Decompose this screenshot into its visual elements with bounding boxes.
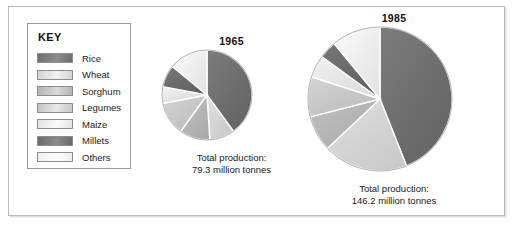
legend-label-millets: Millets xyxy=(82,136,109,146)
legend-item-legumes: Legumes xyxy=(28,100,130,117)
pie-caption-line2-1985: 146.2 million tonnes xyxy=(305,195,483,207)
legend-item-millets: Millets xyxy=(28,133,130,150)
pie-svg-1985 xyxy=(305,24,483,178)
legend-key-box: KEY RiceWheatSorghumLegumesMaizeMilletsO… xyxy=(27,23,131,169)
pie-caption-line2-1965: 79.3 million tonnes xyxy=(159,164,304,176)
pie-caption-line1-1965: Total production: xyxy=(159,152,304,164)
pie-chart-1985: 1985 Total production: 146.2 million ton… xyxy=(305,12,483,207)
legend-item-list: RiceWheatSorghumLegumesMaizeMilletsOther… xyxy=(28,50,130,166)
legend-item-maize: Maize xyxy=(28,116,130,133)
legend-swatch-icon-rice xyxy=(37,53,73,63)
legend-item-others: Others xyxy=(28,149,130,166)
legend-item-sorghum: Sorghum xyxy=(28,83,130,100)
legend-label-legumes: Legumes xyxy=(82,103,121,113)
legend-swatch-icon-sorghum xyxy=(37,86,73,96)
legend-label-sorghum: Sorghum xyxy=(82,87,121,97)
pie-svg-root-1965 xyxy=(159,47,255,143)
legend-swatch-icon-wheat xyxy=(37,70,73,80)
pie-caption-1985: Total production: 146.2 million tonnes xyxy=(305,183,483,207)
legend-item-rice: Rice xyxy=(28,50,130,67)
legend-label-rice: Rice xyxy=(82,54,101,64)
legend-swatch-icon-others xyxy=(37,152,73,162)
legend-label-wheat: Wheat xyxy=(82,70,109,80)
pie-year-label-1985: 1985 xyxy=(305,12,483,24)
pie-svg-root-1985 xyxy=(305,24,455,174)
legend-swatch-icon-legumes xyxy=(37,103,73,113)
legend-swatch-icon-millets xyxy=(37,136,73,146)
pie-chart-1965: 1965 Total production: 79.3 million tonn… xyxy=(159,35,304,176)
pie-year-label-1965: 1965 xyxy=(159,35,304,47)
legend-title: KEY xyxy=(38,31,62,43)
figure-frame: KEY RiceWheatSorghumLegumesMaizeMilletsO… xyxy=(8,6,505,216)
pie-svg-1965 xyxy=(159,47,304,147)
legend-swatch-icon-maize xyxy=(37,119,73,129)
pie-caption-1965: Total production: 79.3 million tonnes xyxy=(159,152,304,176)
legend-item-wheat: Wheat xyxy=(28,67,130,84)
pie-caption-line1-1985: Total production: xyxy=(305,183,483,195)
legend-label-others: Others xyxy=(82,153,111,163)
legend-label-maize: Maize xyxy=(82,120,107,130)
